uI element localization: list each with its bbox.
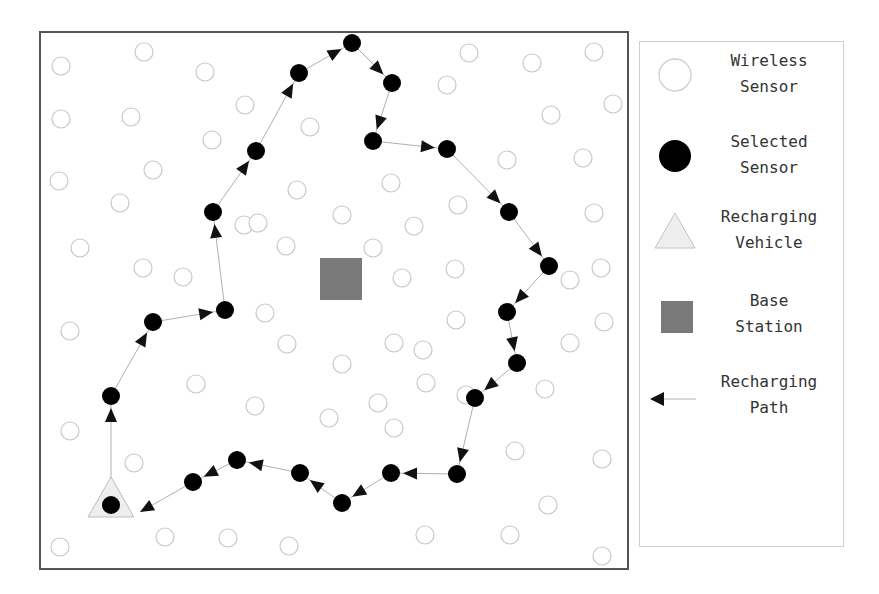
selected-sensor bbox=[144, 313, 162, 331]
wireless-sensor bbox=[447, 311, 465, 329]
wireless-sensor bbox=[536, 380, 554, 398]
selected-sensor bbox=[247, 142, 265, 160]
legend: Wireless Sensor Selected Sensor Rechargi… bbox=[639, 41, 844, 547]
wireless-sensor bbox=[301, 118, 319, 136]
legend-label-recharging-vehicle: Recharging Vehicle bbox=[704, 204, 834, 256]
wireless-sensor bbox=[320, 409, 338, 427]
wireless-sensor bbox=[144, 161, 162, 179]
wireless-sensor bbox=[333, 206, 351, 224]
wireless-sensor-icon bbox=[659, 59, 691, 91]
wireless-sensor bbox=[280, 537, 298, 555]
selected-sensor bbox=[466, 389, 484, 407]
legend-label-wireless-sensor: Wireless Sensor bbox=[704, 48, 834, 100]
wireless-sensor bbox=[593, 450, 611, 468]
wireless-sensor bbox=[246, 397, 264, 415]
wireless-sensor bbox=[446, 260, 464, 278]
wireless-sensor bbox=[134, 259, 152, 277]
selected-sensor bbox=[291, 464, 309, 482]
wireless-sensor bbox=[288, 181, 306, 199]
wireless-sensor bbox=[506, 442, 524, 460]
wireless-sensor bbox=[333, 355, 351, 373]
legend-label-selected-sensor: Selected Sensor bbox=[704, 129, 834, 181]
legend-label-recharging-path: Recharging Path bbox=[704, 369, 834, 421]
wireless-sensor bbox=[187, 375, 205, 393]
wireless-sensor bbox=[523, 54, 541, 72]
wireless-sensor bbox=[219, 529, 237, 547]
wireless-sensor bbox=[405, 217, 423, 235]
selected-sensor bbox=[204, 203, 222, 221]
recharging-vehicle-icon bbox=[655, 213, 695, 248]
wireless-sensor bbox=[111, 194, 129, 212]
wireless-sensor bbox=[125, 454, 143, 472]
wireless-sensor bbox=[369, 394, 387, 412]
selected-sensor bbox=[228, 451, 246, 469]
selected-sensor-icon bbox=[659, 140, 691, 172]
wireless-sensor bbox=[561, 334, 579, 352]
wireless-sensor bbox=[604, 95, 622, 113]
selected-sensor bbox=[448, 465, 466, 483]
selected-sensor bbox=[102, 387, 120, 405]
selected-sensor bbox=[184, 473, 202, 491]
wireless-sensor bbox=[416, 526, 434, 544]
selected-sensor bbox=[102, 496, 120, 514]
wireless-sensor bbox=[438, 76, 456, 94]
selected-sensor bbox=[500, 203, 518, 221]
wireless-sensor bbox=[196, 63, 214, 81]
selected-sensor bbox=[290, 64, 308, 82]
selected-sensor bbox=[216, 301, 234, 319]
wireless-sensor bbox=[449, 196, 467, 214]
wireless-sensor bbox=[50, 172, 68, 190]
wireless-sensor bbox=[71, 239, 89, 257]
wireless-sensor bbox=[382, 174, 400, 192]
base-station-square bbox=[320, 258, 362, 300]
wireless-sensor bbox=[135, 43, 153, 61]
wireless-sensor bbox=[364, 239, 382, 257]
wireless-sensor bbox=[539, 496, 557, 514]
selected-sensor bbox=[343, 34, 361, 52]
wireless-sensor bbox=[277, 237, 295, 255]
wireless-sensor bbox=[561, 271, 579, 289]
wireless-sensor bbox=[460, 44, 478, 62]
wireless-sensor bbox=[592, 259, 610, 277]
selected-sensor bbox=[438, 140, 456, 158]
wireless-sensor bbox=[585, 204, 603, 222]
wireless-sensor bbox=[574, 149, 592, 167]
selected-sensor bbox=[508, 354, 526, 372]
wireless-sensor bbox=[51, 538, 69, 556]
selected-sensor bbox=[333, 494, 351, 512]
recharging-path-arrow-icon bbox=[650, 392, 696, 406]
wireless-sensor bbox=[122, 108, 140, 126]
wireless-sensor bbox=[52, 110, 70, 128]
selected-sensor bbox=[364, 132, 382, 150]
selected-sensor bbox=[382, 464, 400, 482]
wireless-sensor bbox=[542, 106, 560, 124]
wireless-sensor bbox=[156, 528, 174, 546]
wireless-sensor bbox=[203, 131, 221, 149]
wireless-sensor bbox=[236, 96, 254, 114]
wireless-sensor bbox=[385, 334, 403, 352]
wireless-sensor bbox=[385, 419, 403, 437]
wireless-sensor bbox=[595, 313, 613, 331]
wireless-sensor bbox=[278, 335, 296, 353]
selected-sensor bbox=[383, 74, 401, 92]
wireless-sensor bbox=[61, 422, 79, 440]
wireless-sensor bbox=[501, 526, 519, 544]
selected-sensor bbox=[498, 303, 516, 321]
wireless-sensor bbox=[61, 322, 79, 340]
wireless-sensor bbox=[52, 57, 70, 75]
wireless-sensor bbox=[585, 43, 603, 61]
legend-label-base-station: Base Station bbox=[704, 288, 834, 340]
wireless-sensor bbox=[256, 304, 274, 322]
wireless-sensor bbox=[393, 269, 411, 287]
wireless-sensor bbox=[414, 341, 432, 359]
wireless-sensor bbox=[498, 151, 516, 169]
wireless-sensor bbox=[593, 547, 611, 565]
selected-sensor bbox=[540, 257, 558, 275]
wireless-sensor bbox=[249, 214, 267, 232]
wireless-sensor bbox=[174, 268, 192, 286]
base-station bbox=[320, 258, 362, 300]
wireless-sensor bbox=[417, 374, 435, 392]
base-station-icon bbox=[661, 301, 693, 333]
